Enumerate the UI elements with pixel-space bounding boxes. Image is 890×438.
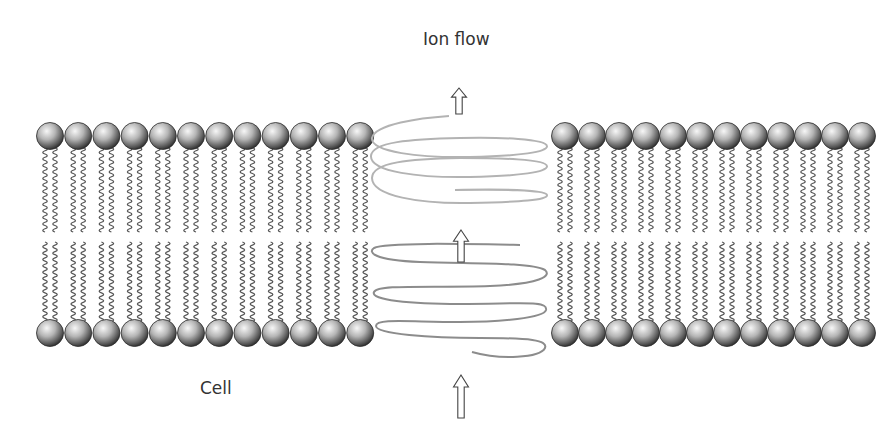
lipid-head-top-left: [234, 123, 261, 150]
lipid-tail: [71, 148, 75, 233]
lipid-tail: [730, 242, 734, 322]
lipid-tail: [43, 242, 47, 322]
lipid-head-bottom-right: [849, 320, 876, 347]
lipid-head-bottom-right: [660, 320, 687, 347]
lipid-head-bottom-right: [579, 320, 606, 347]
lipid-tail: [595, 148, 599, 233]
lipid-head-top-left: [290, 123, 317, 150]
lipid-tail: [43, 148, 47, 233]
lipid-head-bottom-left: [319, 320, 346, 347]
lipid-tail: [278, 242, 282, 322]
lipid-tail: [222, 148, 226, 233]
lipid-head-top-right: [552, 123, 579, 150]
lipid-tail: [801, 148, 805, 233]
lipid-tail: [297, 242, 301, 322]
lipid-head-bottom-left: [206, 320, 233, 347]
lipid-head-bottom-left: [262, 320, 289, 347]
lipid-tail: [307, 242, 311, 322]
lipid-tail: [53, 242, 57, 322]
lipid-head-bottom-right: [795, 320, 822, 347]
lipid-tail: [666, 148, 670, 233]
lipid-tail: [268, 242, 272, 322]
lipid-tail: [240, 242, 244, 322]
lipid-head-top-right: [795, 123, 822, 150]
lipid-tail: [184, 242, 188, 322]
lipid-head-top-right: [741, 123, 768, 150]
lipid-tail: [363, 242, 367, 322]
lipid-tail: [855, 242, 859, 322]
lipid-head-top-left: [319, 123, 346, 150]
lipid-tail: [774, 242, 778, 322]
lipid-head-top-right: [849, 123, 876, 150]
lipid-tail: [81, 148, 85, 233]
lipid-tail: [99, 242, 103, 322]
lipid-tail: [353, 242, 357, 322]
lipid-tail: [212, 242, 216, 322]
lipid-tail: [137, 148, 141, 233]
lipid-head-top-left: [262, 123, 289, 150]
middle-arrow-icon: [454, 230, 469, 262]
lipid-head-bottom-left: [347, 320, 374, 347]
lipid-tail: [212, 148, 216, 233]
lipid-tail: [757, 242, 761, 322]
lipid-head-bottom-right: [687, 320, 714, 347]
helix-upper-coil: [371, 116, 547, 203]
lipid-tail: [307, 148, 311, 233]
lipid-tail: [166, 242, 170, 322]
lipid-head-bottom-left: [65, 320, 92, 347]
lipid-tail: [639, 148, 643, 233]
lipid-head-top-left: [206, 123, 233, 150]
lipid-head-bottom-right: [714, 320, 741, 347]
lipid-tail: [828, 242, 832, 322]
lipid-tail: [184, 148, 188, 233]
lipid-tails-left: [43, 148, 368, 322]
lipid-head-top-right: [660, 123, 687, 150]
lipid-tail: [278, 148, 282, 233]
lipid-tail: [166, 148, 170, 233]
lipid-head-top-left: [93, 123, 120, 150]
lipid-tail: [612, 242, 616, 322]
lipid-head-bottom-right: [741, 320, 768, 347]
lipid-head-bottom-left: [37, 320, 64, 347]
lipid-tail: [363, 148, 367, 233]
lipid-tail: [194, 242, 198, 322]
lipid-tail: [649, 148, 653, 233]
lipid-head-top-right: [714, 123, 741, 150]
lipid-tail: [666, 242, 670, 322]
lipid-tail: [325, 242, 329, 322]
lipid-tail: [99, 148, 103, 233]
lipid-tail: [353, 148, 357, 233]
lipid-tail: [268, 148, 272, 233]
bottom-arrow-icon: [454, 375, 469, 418]
lipid-head-top-right: [768, 123, 795, 150]
lipid-head-bottom-right: [606, 320, 633, 347]
lipid-head-top-right: [633, 123, 660, 150]
ion-flow-label: Ion flow: [423, 29, 490, 49]
lipid-tail: [53, 148, 57, 233]
lipid-tail: [801, 242, 805, 322]
lipid-tail: [703, 242, 707, 322]
lipid-tail: [639, 242, 643, 322]
lipid-tail: [720, 148, 724, 233]
lipid-tail: [595, 242, 599, 322]
lipid-head-bottom-left: [149, 320, 176, 347]
lipid-tail: [335, 242, 339, 322]
lipid-tail: [558, 148, 562, 233]
lipid-tail: [568, 242, 572, 322]
lipid-tail: [156, 242, 160, 322]
lipid-head-bottom-right: [822, 320, 849, 347]
lipid-heads-left: [37, 123, 374, 347]
lipid-head-bottom-right: [768, 320, 795, 347]
top-arrow-icon: [452, 88, 467, 114]
lipid-tail: [194, 148, 198, 233]
lipid-tail: [828, 148, 832, 233]
lipid-tail: [335, 148, 339, 233]
lipid-head-bottom-left: [93, 320, 120, 347]
lipid-head-top-left: [149, 123, 176, 150]
lipid-head-bottom-left: [234, 320, 261, 347]
lipid-tail: [585, 148, 589, 233]
lipid-tail: [585, 242, 589, 322]
lipid-tail: [676, 148, 680, 233]
lipid-tail: [784, 148, 788, 233]
lipid-tail: [855, 148, 859, 233]
